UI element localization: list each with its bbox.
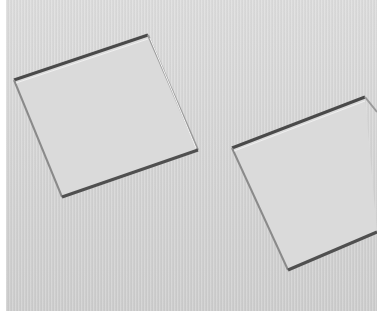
left-square	[14, 35, 198, 197]
right-square	[232, 97, 377, 270]
photo	[0, 0, 377, 317]
embossed-squares	[0, 0, 377, 317]
